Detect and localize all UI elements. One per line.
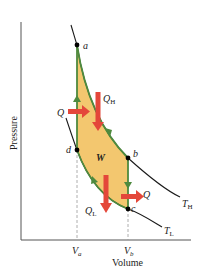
tl-label: TL [164,225,174,238]
label-c: c [131,203,136,214]
label-b: b [133,148,138,159]
q-right-shaft [121,194,136,199]
label-a: a [83,40,88,51]
point-c [126,207,131,212]
point-a [75,43,80,48]
qh-label: QH [103,93,115,106]
y-axis-title: Pressure [8,116,19,150]
ql-shaft [104,175,109,203]
qh-shaft [96,92,101,122]
q-right-label: Q [143,189,151,200]
ql-arrowhead-icon [100,203,112,213]
point-b [126,156,131,161]
q-left-shaft [68,109,82,114]
work-area [77,45,128,209]
x-axis-title: Volume [112,257,143,268]
q-left-label: Q [57,107,65,118]
va-label: Va [72,245,82,258]
diagram-canvas: a b c d W Q QH QL Q TH TL Va Vb Volume P… [0,0,201,271]
th-label: TH [182,198,193,211]
point-d [75,148,80,153]
work-label: W [96,152,106,163]
pv-diagram: a b c d W Q QH QL Q TH TL Va Vb Volume P… [0,0,201,271]
label-d: d [66,144,72,155]
ql-label: QL [85,205,97,218]
